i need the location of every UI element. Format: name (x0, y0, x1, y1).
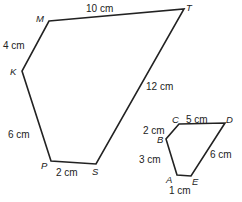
side-length-ab: 3 cm (139, 155, 161, 165)
vertex-label-b: B (157, 135, 163, 145)
vertex-label-t: T (186, 3, 192, 13)
vertex-label-p: P (41, 161, 47, 171)
vertex-label-c: C (172, 115, 179, 125)
side-length-mt: 10 cm (86, 4, 113, 14)
side-length-kp: 6 cm (8, 130, 30, 140)
side-length-de: 6 cm (210, 150, 232, 160)
side-length-mk: 4 cm (3, 41, 25, 51)
vertex-label-a: A (166, 175, 172, 185)
side-length-ts: 12 cm (146, 82, 173, 92)
polygons (0, 0, 242, 202)
vertex-label-k: K (10, 67, 16, 77)
side-length-bc: 2 cm (143, 126, 165, 136)
side-length-ps: 2 cm (56, 168, 78, 178)
vertex-label-d: D (226, 115, 233, 125)
vertex-label-m: M (36, 14, 44, 24)
figure-canvas: M T K P S 10 cm 4 cm 6 cm 2 cm 12 cm C D… (0, 0, 242, 202)
vertex-label-e: E (192, 177, 198, 187)
vertex-label-s: S (92, 167, 98, 177)
side-length-cd: 5 cm (186, 115, 208, 125)
side-length-ae: 1 cm (169, 186, 191, 196)
